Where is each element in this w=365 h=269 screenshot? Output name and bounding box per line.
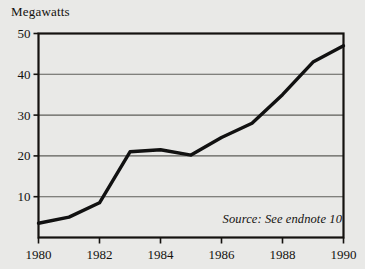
- y-tick-label: 20: [18, 148, 31, 163]
- plot-frame: [39, 34, 344, 238]
- x-tick-label: 1982: [87, 247, 113, 262]
- x-tick-label: 1984: [148, 247, 175, 262]
- y-tick-label: 50: [18, 26, 31, 41]
- source-annotation: Source: See endnote 10: [223, 212, 342, 227]
- x-tick-label: 1988: [270, 247, 296, 262]
- x-tick-label: 1980: [26, 247, 52, 262]
- line-chart-plot: 1020304050 198019821984198619881990: [0, 0, 365, 269]
- y-tick-label: 40: [18, 67, 31, 82]
- chart-figure: Megawatts 1020304050 1980198219841986198…: [0, 0, 365, 269]
- plot-border: [39, 34, 344, 238]
- x-tick-group: 198019821984198619881990: [26, 238, 357, 262]
- gridline-group: [39, 74, 344, 196]
- y-tick-label: 10: [18, 189, 31, 204]
- x-tick-label: 1990: [331, 247, 357, 262]
- y-tick-group: 1020304050: [18, 26, 39, 204]
- x-tick-label: 1986: [209, 247, 236, 262]
- y-tick-label: 30: [18, 108, 31, 123]
